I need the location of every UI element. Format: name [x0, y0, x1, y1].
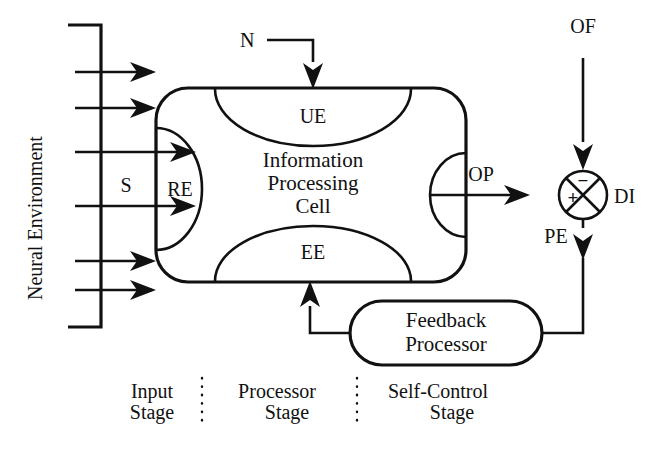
feedback-processor-line2: Processor [405, 332, 487, 356]
outer-feedback-label: OF [570, 15, 596, 37]
cell-title-line3: Cell [296, 194, 331, 218]
receptor-label: RE [167, 178, 193, 200]
stage-selfcontrol-line2: Stage [430, 401, 475, 424]
environment-label: Neural Environment [24, 136, 46, 300]
desired-input-label: DI [614, 185, 635, 207]
stage-input-line2: Stage [130, 401, 175, 424]
output-label: OP [468, 163, 494, 185]
lower-effector-label: EE [301, 241, 325, 263]
process-error-label: PE [544, 225, 567, 247]
information-processing-cell-diagram: Neural Environment S [0, 0, 672, 449]
neural-input-label: N [240, 29, 254, 51]
upper-effector-label: UE [300, 105, 327, 127]
junction-minus-sign: − [578, 170, 589, 191]
stage-input-line1: Input [131, 380, 174, 403]
cell-title-line1: Information [263, 148, 364, 172]
stage-caption-input: Input Stage [130, 380, 175, 424]
stage-processor-line1: Processor [238, 380, 316, 402]
diagram-canvas: Neural Environment S [0, 0, 672, 449]
feedback-processor-line1: Feedback [406, 308, 487, 332]
stage-selfcontrol-line1: Self-Control [388, 380, 488, 402]
junction-plus-sign: + [568, 187, 579, 208]
stimulus-label: S [120, 174, 131, 196]
stage-processor-line2: Stage [265, 401, 310, 424]
cell-title-line2: Processing [268, 171, 359, 195]
